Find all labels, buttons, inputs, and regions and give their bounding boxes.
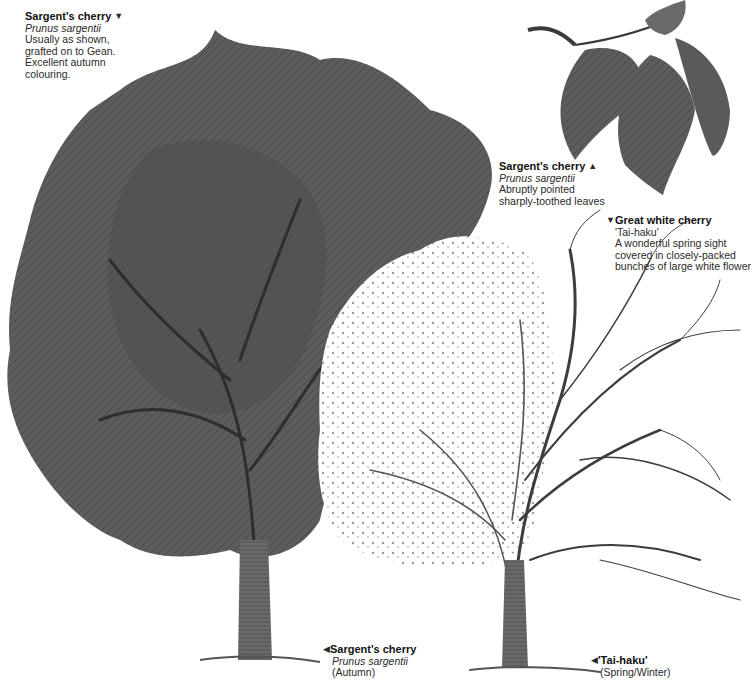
label-sargent-leaves: Sargent's cherry ▲ Prunus sargentii Abru… [499,161,605,207]
label-title: Sargent's cherry [25,10,111,22]
arrow-up-icon: ▲ [588,161,597,173]
label-title: Sargent's cherry [330,643,416,655]
arrow-left-icon: ◀ [591,655,598,667]
label-desc-line: colouring. [25,69,123,81]
label-title: Sargent's cherry [499,160,585,172]
label-sargent-tree: Sargent's cherry ▼ Prunus sargentii Usua… [25,11,123,80]
label-title: Great white cherry [615,214,712,226]
arrow-down-icon: ▼ [114,11,123,23]
label-desc-line: Excellent autumn [25,57,123,69]
label-desc-line: A wonderful spring sight [606,238,751,250]
label-title: 'Tai-haku' [598,654,648,666]
label-desc-line: (Spring/Winter) [591,667,671,679]
label-desc-line: bunches of large white flower [606,261,751,273]
label-desc-line: (Autumn) [323,667,416,679]
label-sargent-autumn: ◀Sargent's cherry Prunus sargentii (Autu… [323,644,416,679]
arrow-down-icon: ▼ [606,215,615,227]
label-desc-line: sharply-toothed leaves [499,196,605,208]
arrow-left-icon: ◀ [323,644,330,656]
label-desc-line: Abruptly pointed [499,184,605,196]
label-tai-haku: ◀'Tai-haku' (Spring/Winter) [591,655,671,678]
label-desc-line: Usually as shown, [25,34,123,46]
label-great-white: ▼Great white cherry 'Tai-haku' A wonderf… [606,215,751,273]
cherry-trees-illustration [0,0,755,682]
